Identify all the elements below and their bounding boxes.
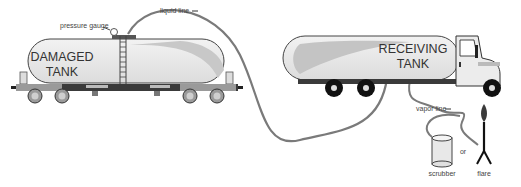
- receiving-tank-truck: RECEIVING TANK: [283, 36, 501, 97]
- liquid-line-label: liquid line: [160, 7, 189, 15]
- vapor-line-label: vapor line: [416, 105, 446, 113]
- scrubber-label: scrubber: [428, 170, 456, 177]
- rail-wheels: [28, 89, 224, 103]
- pressure-gauge-icon: [111, 29, 118, 36]
- flare-label: flare: [477, 170, 491, 177]
- damaged-tank-car: DAMAGED TANK: [11, 29, 243, 104]
- damaged-tank-label: DAMAGED: [30, 50, 93, 64]
- truck-cab: [456, 36, 500, 86]
- scrubber-canister-icon: [432, 135, 452, 167]
- receiving-tank-label: RECEIVING: [379, 42, 448, 56]
- receiving-tank-label-2: TANK: [397, 57, 430, 71]
- or-label: or: [460, 148, 467, 155]
- damaged-tank-label-2: TANK: [46, 65, 79, 79]
- pressure-gauge-label: pressure gauge: [60, 22, 109, 30]
- flare-stack-icon: [477, 104, 491, 164]
- flame-icon: [481, 104, 487, 122]
- transfer-diagram: DAMAGED TANK pressure gauge liquid line: [0, 0, 521, 187]
